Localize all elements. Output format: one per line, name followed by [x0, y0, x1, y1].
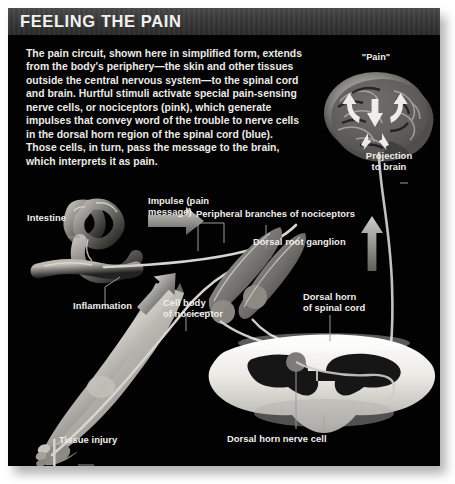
label-pain: "Pain" — [348, 52, 404, 63]
intro-paragraph: The pain circuit, shown here in simplifi… — [26, 47, 304, 168]
label-intestine: Intestine — [8, 212, 66, 223]
page-title: FEELING THE PAIN — [20, 12, 181, 31]
infographic-figure: FEELING THE PAIN — [8, 8, 440, 466]
label-projection-to-brain: Projection to brain — [356, 150, 422, 173]
label-cell-body-of-nociceptor: Cell body of nociceptor — [163, 297, 223, 320]
spinal-cord-cross-section — [209, 333, 435, 433]
label-dorsal-horn-of-spinal-cord: Dorsal horn of spinal cord — [303, 291, 365, 314]
projection-arrow — [361, 216, 383, 271]
label-peripheral-branches: Peripheral branches of nociceptors — [196, 208, 355, 219]
label-dorsal-root-ganglion: Dorsal root ganglion — [253, 236, 346, 247]
illustration-canvas: The pain circuit, shown here in simplifi… — [8, 35, 440, 466]
label-inflammation: Inflammation — [73, 300, 132, 311]
label-dorsal-horn-nerve-cell: Dorsal horn nerve cell — [227, 433, 327, 444]
figure-header-bar: FEELING THE PAIN — [8, 8, 440, 35]
label-tissue-injury: Tissue injury — [59, 434, 117, 445]
